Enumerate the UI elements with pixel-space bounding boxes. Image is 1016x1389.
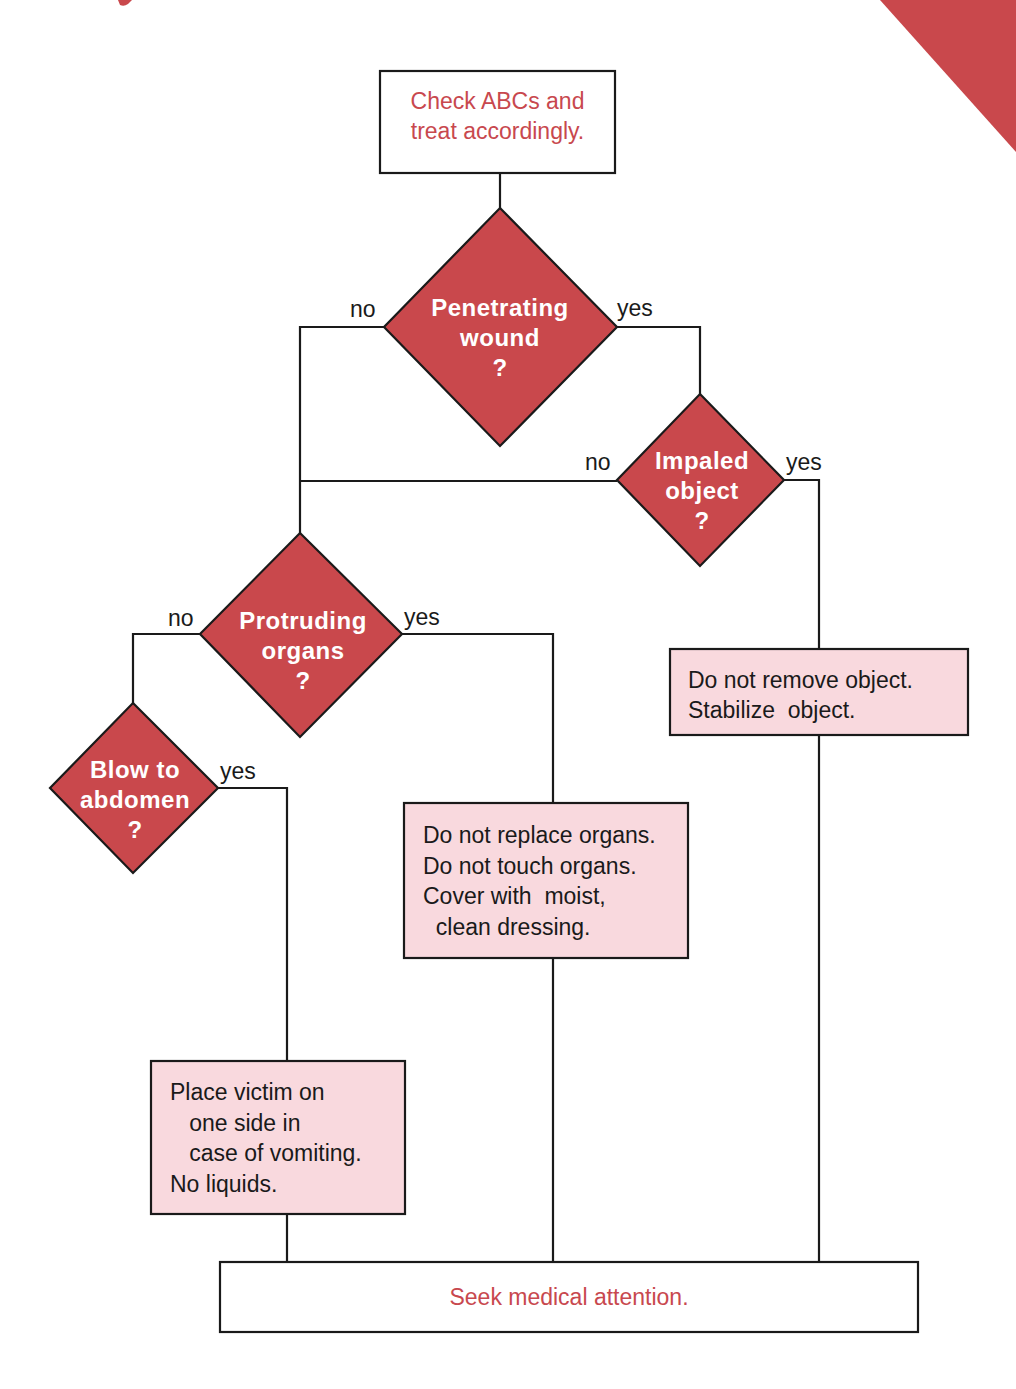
decision-line: Protruding [239, 606, 367, 636]
decision-line: abdomen [80, 785, 190, 815]
end-node-line: Seek medical attention. [449, 1282, 688, 1312]
decision-line: ? [694, 506, 709, 536]
vomit-action-node: Place victim on one side in case of vomi… [170, 1076, 402, 1200]
end-node: Seek medical attention. [220, 1262, 918, 1332]
action-line: Do not replace organs. [423, 820, 656, 851]
decision-line: object [665, 476, 739, 506]
impaled-no-label: no [585, 450, 611, 474]
decision-line: ? [295, 666, 310, 696]
decision-line: organs [261, 636, 344, 666]
action-line: Cover with moist, [423, 881, 606, 912]
decision-line: wound [460, 323, 540, 353]
action-line: one side in [170, 1108, 300, 1139]
start-node: Check ABCs and treat accordingly. [380, 84, 615, 148]
action-line: Stabilize object. [688, 695, 855, 726]
start-node-line: treat accordingly. [411, 116, 584, 146]
protruding-no-label: no [168, 606, 194, 630]
impaled-yes-label: yes [786, 450, 822, 474]
title-fragment-shape [118, 0, 132, 6]
organs-action-node: Do not replace organs. Do not touch orga… [423, 819, 685, 943]
object-action-node: Do not remove object. Stabilize object. [688, 665, 963, 725]
action-line: Do not touch organs. [423, 851, 637, 882]
impaled-object-decision: Impaled object ? [632, 443, 772, 539]
action-line: Do not remove object. [688, 665, 913, 696]
decision-line: Penetrating [431, 293, 569, 323]
action-line: Place victim on [170, 1077, 325, 1108]
protruding-organs-decision: Protruding organs ? [210, 603, 396, 699]
decision-line: Impaled [655, 446, 749, 476]
start-node-line: Check ABCs and [411, 86, 585, 116]
action-line: case of vomiting. [170, 1138, 362, 1169]
blow-yes-label: yes [220, 759, 256, 783]
decision-line: ? [492, 353, 507, 383]
decision-line: ? [127, 815, 142, 845]
penetrating-wound-decision: Penetrating wound ? [400, 290, 600, 386]
blow-to-abdomen-decision: Blow to abdomen ? [60, 752, 210, 848]
corner-accent-shape [880, 0, 1016, 152]
penetrating-yes-label: yes [617, 296, 653, 320]
decision-line: Blow to [90, 755, 180, 785]
action-line: No liquids. [170, 1169, 277, 1200]
action-line: clean dressing. [423, 912, 590, 943]
protruding-yes-label: yes [404, 605, 440, 629]
penetrating-no-label: no [350, 297, 376, 321]
